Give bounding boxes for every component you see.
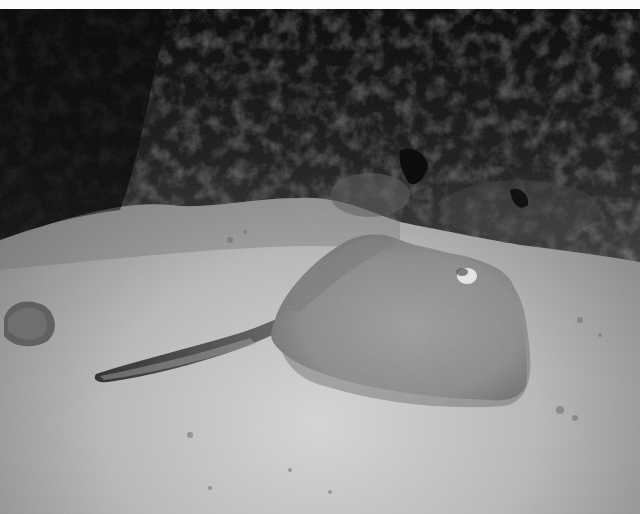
stingray-photo <box>0 9 640 514</box>
scene-drawing <box>0 9 640 514</box>
photo-frame <box>0 0 640 514</box>
